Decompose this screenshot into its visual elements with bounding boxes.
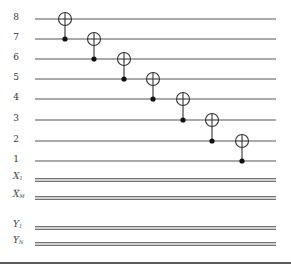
qubit-label-4: 4: [9, 92, 23, 102]
cnot-gate-5: [177, 93, 190, 123]
register-label-y-first: Y1: [13, 219, 22, 231]
qubit-label-6: 6: [9, 52, 23, 62]
cnot-gate-1: [59, 13, 72, 42]
qubit-label-3: 3: [9, 113, 23, 123]
cnot-gate-6: [206, 114, 219, 144]
cnot-control-dot-icon: [180, 117, 185, 122]
qubit-label-5: 5: [9, 72, 23, 82]
cnot-gate-7: [236, 135, 249, 164]
register-label-x-first: X1: [13, 171, 23, 183]
classical-wire-y-first: [35, 227, 276, 229]
register-ellipsis-y: ...: [14, 232, 19, 238]
classical-wire-x-first: [35, 179, 276, 181]
register-label-x-first-subscript: 1: [19, 175, 22, 181]
qubit-label-1: 1: [9, 154, 23, 164]
cnot-control-dot-icon: [150, 96, 155, 101]
register-label-y-first-subscript: 1: [19, 223, 22, 229]
register-label-x-last-subscript: M: [19, 193, 24, 199]
cnot-control-dot-icon: [91, 56, 96, 61]
classical-register-wires: [35, 179, 276, 245]
quantum-circuit-diagram: [0, 0, 291, 268]
qubit-label-8: 8: [9, 12, 23, 22]
classical-wire-y-last: [35, 243, 276, 245]
cnot-control-dot-icon: [239, 158, 244, 163]
cnot-control-dot-icon: [121, 76, 126, 81]
cnot-gate-3: [118, 53, 131, 82]
qubit-label-7: 7: [9, 32, 23, 42]
cnot-gate-4: [147, 73, 160, 102]
register-label-y-last-subscript: N: [19, 239, 23, 245]
cnot-control-dot-icon: [209, 138, 214, 143]
cnot-control-dot-icon: [62, 36, 67, 41]
register-ellipsis-x: ...: [14, 185, 19, 191]
qubit-label-2: 2: [9, 134, 23, 144]
classical-wire-x-last: [35, 197, 276, 199]
cnot-gate-2: [88, 33, 101, 62]
